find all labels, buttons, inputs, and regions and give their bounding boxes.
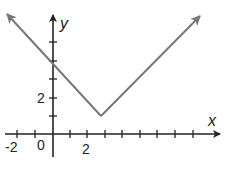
x-tick-label-neg2: -2 <box>5 139 18 155</box>
x-axis-label: x <box>207 112 217 129</box>
x-tick-label-0: 0 <box>37 137 45 153</box>
coordinate-plane: x y -2 0 2 2 <box>0 0 238 170</box>
y-axis-label: y <box>59 15 69 32</box>
graph-right-ray <box>101 16 200 116</box>
x-tick-label-2: 2 <box>82 141 90 157</box>
graph-left-ray <box>7 14 101 116</box>
y-tick-label-2: 2 <box>37 90 45 106</box>
